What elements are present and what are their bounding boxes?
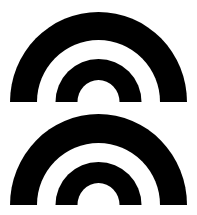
- bottom-concentric-semicircles: [10, 114, 187, 205]
- semicircles-canvas: [0, 0, 197, 215]
- concentric-semicircles-diagram: [0, 0, 197, 215]
- top-concentric-semicircles: [10, 12, 187, 102]
